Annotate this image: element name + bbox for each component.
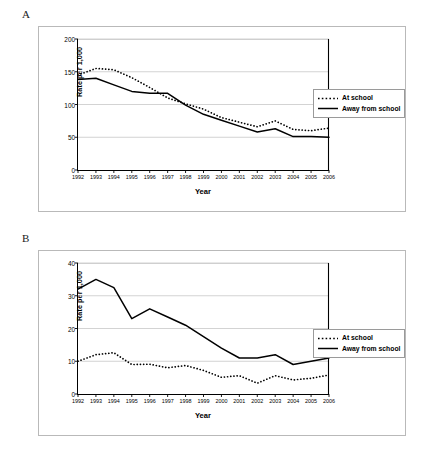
x-tick-label: 2005 — [305, 174, 317, 180]
x-tick-label: 2004 — [287, 398, 299, 404]
y-tick-label: 10 — [68, 358, 75, 365]
chart-frame-b: Rate per 1,000 0102030401992199319941995… — [38, 250, 406, 436]
y-tick-label: 150 — [64, 68, 75, 75]
x-tick-label: 2005 — [305, 398, 317, 404]
x-tick-label: 2004 — [287, 174, 299, 180]
legend-a: At school Away from school — [313, 89, 405, 118]
x-tick-label: 2000 — [215, 398, 227, 404]
x-tick-label: 2003 — [269, 398, 281, 404]
legend-item-away-from-school: Away from school — [317, 104, 400, 115]
x-tick-label: 1992 — [72, 398, 84, 404]
x-tick-label: 2001 — [233, 398, 245, 404]
y-tick-label: 100 — [64, 101, 75, 108]
y-tick-label: 0 — [71, 391, 75, 398]
series-line-away-from-school — [78, 78, 329, 137]
x-tick-label: 1998 — [180, 398, 192, 404]
panel-letter-a: A — [22, 8, 30, 20]
x-tick-label: 2000 — [215, 174, 227, 180]
plot-area-a: Rate per 1,000 0501001502001992199319941… — [77, 39, 329, 171]
x-tick-label: 1993 — [90, 174, 102, 180]
x-tick-label: 2001 — [233, 174, 245, 180]
x-tick-label: 1994 — [108, 174, 120, 180]
x-tick-label: 1995 — [126, 174, 138, 180]
legend-label-away-from-school: Away from school — [342, 104, 400, 115]
x-tick-label: 1999 — [198, 398, 210, 404]
legend-label-at-school: At school — [342, 93, 373, 104]
x-tick-label: 2006 — [323, 174, 335, 180]
y-tick-label: 20 — [68, 325, 75, 332]
series-line-away-from-school — [78, 279, 329, 364]
legend-key-solid-icon — [317, 345, 339, 352]
plot-area-b: Rate per 1,000 0102030401992199319941995… — [77, 263, 329, 395]
legend-b: At school Away from school — [313, 329, 405, 358]
x-tick-label: 2002 — [251, 174, 263, 180]
x-tick-label: 2003 — [269, 174, 281, 180]
legend-key-dotted-icon — [317, 335, 339, 342]
legend-item-at-school: At school — [317, 93, 400, 104]
y-tick-label: 30 — [68, 292, 75, 299]
chart-svg — [78, 263, 329, 394]
x-tick-label: 1992 — [72, 174, 84, 180]
chart-svg — [78, 39, 329, 170]
legend-key-solid-icon — [317, 105, 339, 112]
plot-canvas-a: 0501001502001992199319941995199619971998… — [77, 39, 329, 171]
x-tick-label: 1995 — [126, 398, 138, 404]
x-tick-label: 1999 — [198, 174, 210, 180]
y-tick-label: 200 — [64, 36, 75, 43]
series-line-at-school — [78, 68, 329, 130]
y-tick-label: 40 — [68, 260, 75, 267]
x-tick-label: 1997 — [162, 398, 174, 404]
legend-label-at-school: At school — [342, 333, 373, 344]
x-tick-label: 2006 — [323, 398, 335, 404]
x-axis-label-b: Year — [195, 411, 211, 420]
y-tick-label: 50 — [68, 134, 75, 141]
series-line-at-school — [78, 353, 329, 383]
x-tick-label: 1993 — [90, 398, 102, 404]
legend-key-dotted-icon — [317, 95, 339, 102]
legend-label-away-from-school: Away from school — [342, 344, 400, 355]
x-tick-label: 1994 — [108, 398, 120, 404]
x-tick-label: 1997 — [162, 174, 174, 180]
x-tick-label: 1998 — [180, 174, 192, 180]
panel-letter-b: B — [22, 232, 29, 244]
x-tick-label: 1996 — [144, 398, 156, 404]
y-tick-label: 0 — [71, 167, 75, 174]
legend-item-at-school: At school — [317, 333, 400, 344]
x-axis-label-a: Year — [195, 187, 211, 196]
chart-frame-a: Rate per 1,000 0501001502001992199319941… — [38, 26, 406, 212]
plot-canvas-b: 0102030401992199319941995199619971998199… — [77, 263, 329, 395]
x-tick-label: 2002 — [251, 398, 263, 404]
legend-item-away-from-school: Away from school — [317, 344, 400, 355]
x-tick-label: 1996 — [144, 174, 156, 180]
